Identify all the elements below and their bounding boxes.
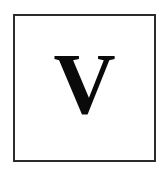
letter-glyph-container: V [15, 16, 154, 164]
letter-card-frame: V [13, 14, 156, 162]
card-inner-plate: V [15, 16, 154, 160]
capital-letter-v: V [53, 41, 115, 127]
image-canvas: V [0, 0, 165, 175]
